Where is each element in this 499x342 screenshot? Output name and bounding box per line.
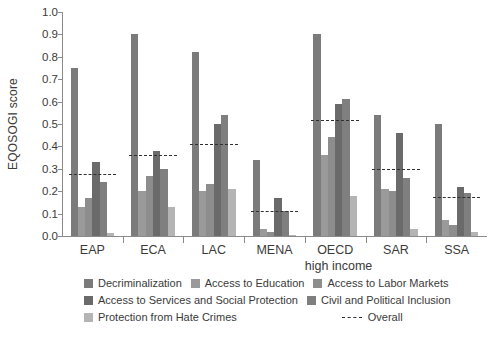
overall-reference-line (190, 144, 238, 145)
y-axis-title-text: EQOSOGI score (6, 78, 20, 170)
bar-group (313, 12, 357, 236)
legend-item-overall: Overall (342, 312, 403, 323)
legend-label: Protection from Hate Crimes (98, 312, 237, 323)
x-axis-group-label: EAP (62, 243, 123, 257)
bar (403, 178, 410, 236)
bar (328, 137, 335, 236)
bar (464, 193, 471, 236)
legend-label: Access to Education (205, 278, 305, 289)
bar (146, 176, 153, 236)
bar (260, 229, 267, 236)
x-axis-group-sublabel: high income (305, 259, 366, 273)
y-axis-tick-mark (58, 124, 62, 125)
y-axis-tick-mark (58, 191, 62, 192)
y-axis-tick-mark (58, 79, 62, 80)
bar-group-bars (71, 12, 115, 236)
legend-label: Overall (368, 312, 403, 323)
y-axis-tick-label: 0.8 (28, 51, 58, 63)
bar (253, 160, 260, 236)
bar-group (435, 12, 479, 236)
bar (350, 196, 357, 236)
bar (138, 191, 145, 236)
x-axis-group-separator (305, 236, 306, 243)
dashed-line-icon (342, 317, 362, 318)
bar-group-bars (374, 12, 418, 236)
y-axis-tick-label: 0.7 (28, 73, 58, 85)
legend-item-access-to-services-and-social-protection: Access to Services and Social Protection (84, 295, 298, 306)
legend-swatch-icon (307, 296, 316, 305)
x-axis-group-separator (366, 236, 367, 243)
bar (381, 189, 388, 236)
legend-label: Civil and Political Inclusion (321, 295, 451, 306)
x-axis-group-label: ECA (123, 243, 184, 257)
bar (168, 207, 175, 236)
bar (389, 191, 396, 236)
bar (289, 235, 296, 236)
bar-group (374, 12, 418, 236)
overall-reference-line (433, 197, 481, 198)
bar-group (71, 12, 115, 236)
bar (131, 34, 138, 236)
y-axis-tick-label: 1.0 (28, 6, 58, 18)
legend-label: Access to Services and Social Protection (98, 295, 298, 306)
legend-label: Access to Labor Markets (327, 278, 448, 289)
overall-reference-line (251, 211, 299, 212)
y-axis-tick-mark (58, 236, 62, 237)
y-axis-tick-label: 0.0 (28, 230, 58, 242)
x-axis-group-label: SAR (366, 243, 427, 257)
bar-group-bars (313, 12, 357, 236)
bar (267, 232, 274, 236)
y-axis-tick-label: 0.2 (28, 185, 58, 197)
bar (457, 187, 464, 236)
y-axis-tick-mark (58, 169, 62, 170)
y-axis-line (62, 12, 63, 236)
bar (92, 162, 99, 236)
y-axis-tick-mark (58, 146, 62, 147)
legend-row-1: Decriminalization Access to Education Ac… (84, 276, 496, 291)
legend-item-access-to-education: Access to Education (191, 278, 305, 289)
y-axis-tick-label: 0.4 (28, 140, 58, 152)
x-axis-group-separator (123, 236, 124, 243)
bar (471, 232, 478, 236)
overall-reference-line (311, 120, 359, 121)
y-axis-tick-label: 0.5 (28, 118, 58, 130)
x-axis-group-label: OECD (305, 243, 366, 257)
legend-label: Decriminalization (98, 278, 182, 289)
bar (228, 189, 235, 236)
x-axis-group-label: LAC (183, 243, 244, 257)
x-axis-group-separator (183, 236, 184, 243)
legend-swatch-icon (84, 279, 93, 288)
x-axis-group-separator (426, 236, 427, 243)
bar (435, 124, 442, 236)
y-axis-tick-mark (58, 102, 62, 103)
bar (410, 229, 417, 236)
y-axis-tick-label: 0.3 (28, 163, 58, 175)
y-axis-tick-mark (58, 214, 62, 215)
x-axis-group-separator (244, 236, 245, 243)
legend-swatch-icon (84, 313, 93, 322)
bar-group-bars (253, 12, 297, 236)
eqosogi-score-bar-chart: EQOSOGI score 1.00.90.80.70.60.50.40.30.… (0, 0, 499, 342)
bar (274, 198, 281, 236)
x-axis-line (62, 236, 487, 237)
bar-group-bars (192, 12, 236, 236)
overall-reference-line (372, 169, 420, 170)
x-axis-group-label: MENA (244, 243, 305, 257)
overall-reference-line (69, 174, 117, 175)
y-axis-title: EQOSOGI score (2, 0, 24, 248)
y-axis-tick-mark (58, 34, 62, 35)
bar-group-bars (435, 12, 479, 236)
bar (153, 151, 160, 236)
bar (396, 133, 403, 236)
bar (374, 115, 381, 236)
y-axis-tick-mark (58, 12, 62, 13)
bar (282, 211, 289, 236)
legend-item-civil-and-political-inclusion: Civil and Political Inclusion (307, 295, 451, 306)
bar-group (253, 12, 297, 236)
x-axis-group-label: SSA (426, 243, 487, 257)
bar-group (192, 12, 236, 236)
legend-swatch-icon (84, 296, 93, 305)
bar (221, 115, 228, 236)
legend-swatch-icon (313, 279, 322, 288)
y-axis-tick-label: 0.1 (28, 208, 58, 220)
